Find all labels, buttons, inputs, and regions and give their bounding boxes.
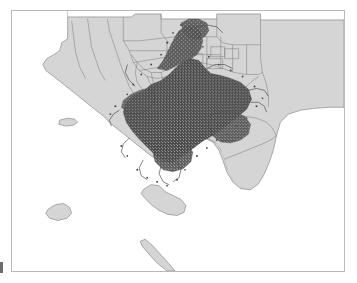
east-boundary-step: [268, 107, 278, 122]
map-figure-root: [0, 0, 357, 283]
edge-tick-marker: [0, 262, 3, 273]
map-frame[interactable]: [11, 10, 345, 272]
map-canvas[interactable]: [12, 11, 344, 271]
